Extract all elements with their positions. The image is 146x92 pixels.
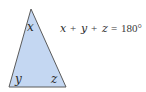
equation-var-z: z	[101, 22, 108, 35]
triangle-diagram: x y z x + y + z = 180°	[0, 0, 146, 92]
equation-var-x: x	[60, 22, 67, 35]
equation-var-y: y	[80, 22, 88, 35]
angle-label-y: y	[14, 72, 22, 86]
equation-plus-1: +	[70, 22, 76, 34]
angle-label-z: z	[50, 72, 58, 86]
equation-plus-2: +	[91, 22, 97, 34]
angle-label-x: x	[27, 20, 34, 34]
angle-sum-equation: x + y + z = 180°	[60, 22, 142, 35]
equation-value: 180°	[121, 22, 142, 34]
equation-equals: =	[111, 22, 117, 34]
